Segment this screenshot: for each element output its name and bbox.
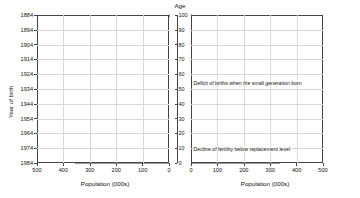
year-axis-tick-label: 1954 — [8, 116, 33, 122]
age-axis-title: Age — [160, 2, 200, 9]
right-x-axis-tick-label: 500 — [309, 167, 337, 173]
gridline-horizontal — [191, 119, 323, 120]
year-axis-tick — [34, 44, 37, 45]
gridline-horizontal — [37, 148, 169, 149]
age-axis-tick — [175, 118, 178, 119]
year-axis-tick-label: 1944 — [8, 101, 33, 107]
year-axis-tick — [34, 59, 37, 60]
gridline-horizontal — [191, 89, 323, 90]
left-x-axis-title: Population (000s) — [45, 180, 165, 187]
gridline-horizontal — [191, 30, 323, 31]
left-x-axis-tick-label: 500 — [23, 167, 51, 173]
year-axis-tick-label: 1904 — [8, 42, 33, 48]
age-axis-tick — [175, 30, 178, 31]
age-axis-tick — [175, 74, 178, 75]
age-axis-tick — [175, 44, 178, 45]
age-axis-tick-label: 90 — [179, 27, 185, 33]
year-axis-tick — [34, 15, 37, 16]
gridline-horizontal — [37, 45, 169, 46]
age-axis-tick — [175, 89, 178, 90]
age-axis-tick — [175, 59, 178, 60]
gridline-horizontal — [37, 133, 169, 134]
age-axis-tick-label: 70 — [179, 56, 185, 62]
left-x-axis-tick-label: 100 — [129, 167, 157, 173]
age-axis-tick-label: 80 — [179, 42, 185, 48]
age-axis-tick-label: 30 — [179, 116, 185, 122]
age-axis-tick-label: 20 — [179, 130, 185, 136]
year-axis-tick — [34, 89, 37, 90]
year-axis-tick — [34, 133, 37, 134]
right-x-axis-tick-label: 100 — [203, 167, 231, 173]
age-axis-tick-label: 0 — [179, 160, 182, 166]
gridline-horizontal — [37, 119, 169, 120]
gridline-horizontal — [191, 133, 323, 134]
year-axis-tick — [34, 30, 37, 31]
year-axis-tick — [34, 148, 37, 149]
year-axis-tick-label: 1914 — [8, 56, 33, 62]
annotation-2: Deficit of births when the small generat… — [193, 80, 302, 86]
year-axis-tick-label: 1884 — [8, 12, 33, 18]
gridline-horizontal — [37, 74, 169, 75]
age-axis-tick-label: 60 — [179, 71, 185, 77]
annotation-5: Decline of fertility below replacement l… — [193, 146, 291, 152]
age-axis-tick-label: 40 — [179, 101, 185, 107]
left-x-axis-tick-label: 400 — [49, 167, 77, 173]
left-x-axis-tick-label: 300 — [76, 167, 104, 173]
year-axis-tick-label: 1934 — [8, 86, 33, 92]
year-axis-tick — [34, 104, 37, 105]
age-axis-tick-label: 100 — [179, 12, 188, 18]
age-axis-tick — [175, 148, 178, 149]
gridline-horizontal — [37, 89, 169, 90]
gridline-horizontal — [37, 59, 169, 60]
age-axis-tick-label: 10 — [179, 145, 185, 151]
year-axis-tick — [34, 74, 37, 75]
age-axis-tick — [175, 15, 178, 16]
gridline-horizontal — [191, 59, 323, 60]
gridline-horizontal — [191, 45, 323, 46]
year-axis-tick — [34, 118, 37, 119]
gridline-horizontal — [37, 30, 169, 31]
gridline-horizontal — [37, 104, 169, 105]
year-axis-tick-label: 1894 — [8, 27, 33, 33]
year-axis-tick-label: 1984 — [8, 160, 33, 166]
right-x-axis-title: Population (000s) — [205, 180, 325, 187]
year-axis-tick-label: 1924 — [8, 71, 33, 77]
age-axis-tick — [175, 104, 178, 105]
year-axis-tick-label: 1974 — [8, 145, 33, 151]
right-x-axis-tick-label: 200 — [230, 167, 258, 173]
age-axis-tick — [175, 163, 178, 164]
age-axis-tick — [175, 133, 178, 134]
gridline-horizontal — [191, 104, 323, 105]
right-x-axis-tick-label: 400 — [283, 167, 311, 173]
gridline-horizontal — [191, 74, 323, 75]
year-axis-tick — [34, 163, 37, 164]
left-x-axis-tick-label: 200 — [102, 167, 130, 173]
right-x-axis-tick-label: 0 — [177, 167, 205, 173]
age-axis-tick-label: 50 — [179, 86, 185, 92]
right-x-axis-tick-label: 300 — [256, 167, 284, 173]
year-axis-tick-label: 1964 — [8, 130, 33, 136]
population-pyramid-chart: Age Year of birth Male Female Population… — [0, 0, 360, 198]
